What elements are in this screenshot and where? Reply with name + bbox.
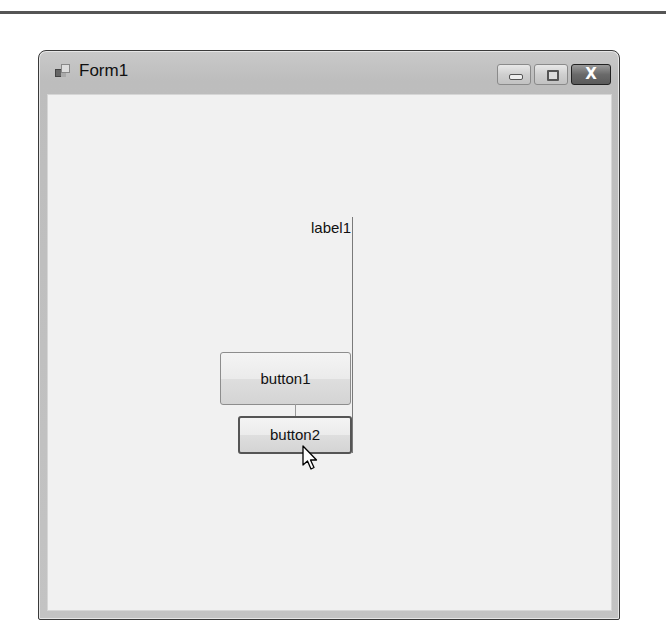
minimize-icon — [509, 74, 523, 80]
caption-buttons: X — [497, 64, 611, 84]
button1[interactable]: button1 — [220, 352, 351, 405]
maximize-icon — [547, 70, 559, 81]
minimize-button[interactable] — [497, 64, 531, 85]
form-app-icon[interactable] — [55, 63, 71, 79]
window-title: Form1 — [79, 61, 128, 81]
arrow-cursor-icon — [301, 445, 321, 471]
title-bar[interactable]: Form1 X — [39, 51, 619, 93]
snapline-vertical — [352, 217, 353, 453]
top-divider — [0, 11, 666, 14]
button2[interactable]: button2 — [238, 416, 352, 454]
close-icon: X — [572, 65, 610, 84]
close-button[interactable]: X — [571, 64, 611, 85]
snapline-tick — [295, 404, 296, 416]
form1-window: Form1 X label1 button1 button2 — [38, 50, 620, 620]
label1: label1 — [308, 219, 351, 236]
maximize-button[interactable] — [534, 64, 568, 85]
client-area: label1 button1 button2 — [47, 94, 612, 611]
